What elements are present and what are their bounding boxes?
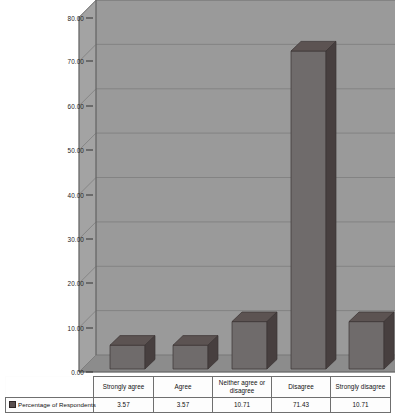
bar-disagree [291,41,336,369]
y-tick-mark-70 [86,61,93,62]
bar-strongly-disagree [349,312,394,369]
category-header-disagree: Disagree [272,377,331,398]
y-tick-mark-40 [86,194,93,195]
table-row-values: Percentage of Respondents 3.57 3.57 10.7… [6,398,391,413]
y-tick-mark-0 [86,372,93,373]
bar-neither-agree-or-disagree [232,312,277,369]
y-tick-mark-20 [86,283,93,284]
y-tick-label-30: 30.00 [68,235,85,242]
y-tick-label-60: 60.00 [68,102,85,109]
value-cell-agree: 3.57 [154,398,213,413]
y-tick-label-70: 70.00 [68,58,85,65]
table-corner-blank [6,377,94,398]
plot-area: 80.00 70.00 60.00 50.00 40.00 30.00 20.0… [0,0,395,380]
value-cell-strongly-agree: 3.57 [94,398,154,413]
y-tick-label-40: 40.00 [68,191,85,198]
legend-label: Percentage of Respondents [18,401,96,408]
category-header-strongly-disagree: Strongly disagree [331,377,391,398]
category-header-neither-agree-or-disagree: Neither agree or disagree [213,377,272,398]
value-cell-neither-agree-or-disagree: 10.71 [213,398,272,413]
value-cell-disagree: 71.43 [272,398,331,413]
y-tick-mark-80 [86,17,93,18]
y-tick-label-10: 10.00 [68,324,85,331]
y-tick-mark-30 [86,238,93,239]
y-tick-label-20: 20.00 [68,280,85,287]
y-tick-mark-10 [86,327,93,328]
legend-entry-percentage-of-respondents: Percentage of Respondents [6,398,94,413]
category-header-agree: Agree [154,377,213,398]
bar-agree [173,336,218,369]
chart-data-table: Strongly agree Agree Neither agree or di… [5,376,391,413]
bar-chart-figure: 80.00 70.00 60.00 50.00 40.00 30.00 20.0… [0,0,395,417]
legend-swatch-icon [9,401,16,408]
y-tick-label-0: 0.00 [71,369,84,376]
table-row-categories: Strongly agree Agree Neither agree or di… [6,377,391,398]
bar-strongly-agree [110,336,155,369]
value-cell-strongly-disagree: 10.71 [331,398,391,413]
category-header-strongly-agree: Strongly agree [94,377,154,398]
y-axis-labels: 80.00 70.00 60.00 50.00 40.00 30.00 20.0… [0,0,96,380]
y-tick-label-80: 80.00 [68,14,85,21]
y-tick-label-50: 50.00 [68,147,85,154]
y-tick-mark-50 [86,150,93,151]
y-tick-mark-60 [86,105,93,106]
